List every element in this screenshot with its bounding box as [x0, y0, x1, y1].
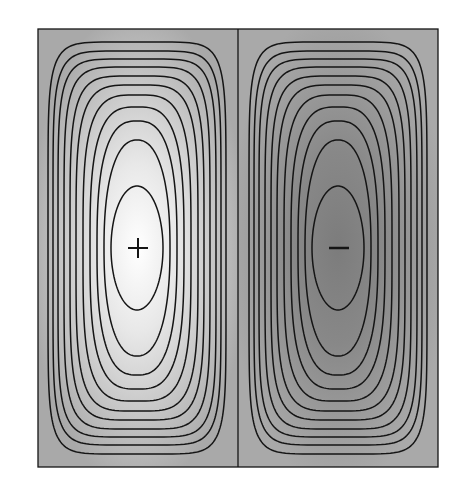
plot-box: [38, 29, 438, 467]
contour-figure: + −: [0, 0, 460, 495]
